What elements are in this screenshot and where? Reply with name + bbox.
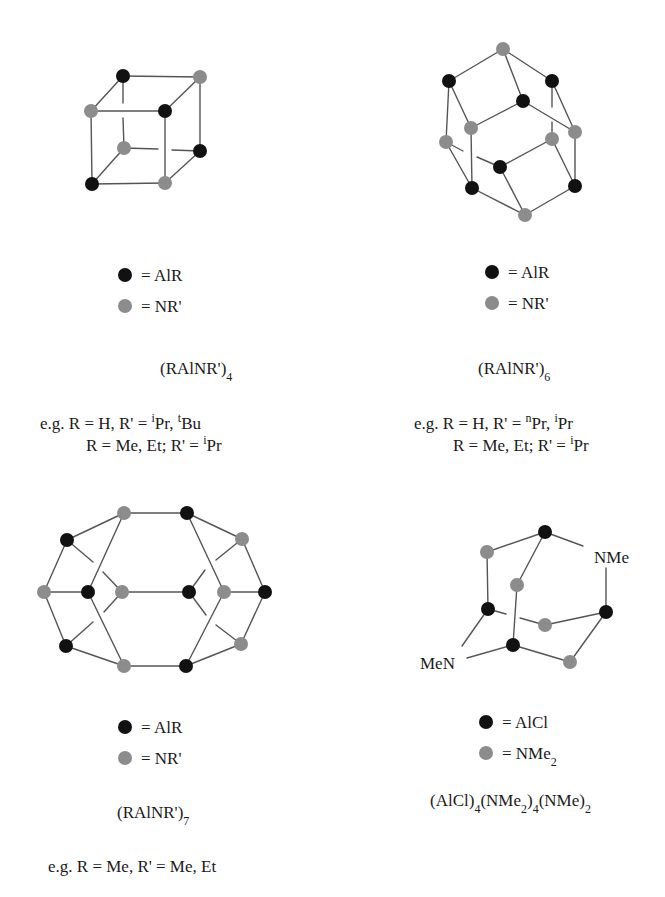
aluminum-atom-dot xyxy=(481,602,495,616)
nitrogen-atom-dot xyxy=(158,176,172,190)
legend-label: = AlR xyxy=(508,263,550,282)
nitrogen-atom-dot xyxy=(568,125,582,139)
aluminum-atom-dot xyxy=(538,525,552,539)
aluminum-atom-dot xyxy=(59,639,73,653)
nitrogen-atom-dot xyxy=(117,659,131,673)
aluminum-atom-dot xyxy=(81,585,95,599)
legend-n-dot xyxy=(118,751,132,765)
bond-line xyxy=(91,111,92,184)
aluminum-atom-dot xyxy=(442,74,456,88)
bond-line xyxy=(123,76,200,77)
nitrogen-atom-dot xyxy=(563,655,577,669)
nitrogen-atom-dot xyxy=(518,208,532,222)
examples-line-2: R = Me, Et; R' = iPr xyxy=(453,433,589,455)
aluminum-atom-dot xyxy=(516,94,530,108)
nme-bridge-label-bottom: MeN xyxy=(420,654,455,673)
legend-label: = AlR xyxy=(141,266,183,285)
examples-line-1: e.g. R = Me, R' = Me, Et xyxy=(48,857,216,876)
nitrogen-atom-dot xyxy=(538,618,552,632)
aluminum-atom-dot xyxy=(182,585,196,599)
nitrogen-atom-dot xyxy=(464,121,478,135)
legend-label: = AlR xyxy=(141,718,183,737)
aluminum-atom-dot xyxy=(193,144,207,158)
examples-line-1: e.g. R = H, R' = nPr, iPr xyxy=(414,411,573,433)
nitrogen-atom-dot xyxy=(496,42,510,56)
legend-al-dot xyxy=(485,265,499,279)
bond-line xyxy=(471,128,472,188)
nitrogen-atom-dot xyxy=(217,585,231,599)
nitrogen-atom-dot xyxy=(545,132,559,146)
legend-label: = NR' xyxy=(141,297,182,316)
aluminum-atom-dot xyxy=(545,74,559,88)
nitrogen-atom-dot xyxy=(439,135,453,149)
aluminum-atom-dot xyxy=(116,69,130,83)
aluminum-imide-structures-figure: = AlR= NR'(RAlNR')4e.g. R = H, R' = iPr,… xyxy=(0,0,665,897)
aluminum-atom-dot xyxy=(465,181,479,195)
legend-al-dot xyxy=(118,720,132,734)
aluminum-atom-dot xyxy=(493,160,507,174)
nitrogen-atom-dot xyxy=(480,545,494,559)
legend-label: = NR' xyxy=(508,294,549,313)
nitrogen-atom-dot xyxy=(235,532,249,546)
nitrogen-atom-dot xyxy=(117,506,131,520)
legend-n-dot xyxy=(485,296,499,310)
aluminum-atom-dot xyxy=(60,533,74,547)
legend-al-dot xyxy=(118,268,132,282)
aluminum-atom-dot xyxy=(258,585,272,599)
nitrogen-atom-dot xyxy=(115,585,129,599)
nitrogen-atom-dot xyxy=(37,585,51,599)
nitrogen-atom-dot xyxy=(84,104,98,118)
bond-line xyxy=(92,183,165,184)
aluminum-atom-dot xyxy=(506,638,520,652)
legend-al-dot xyxy=(479,715,493,729)
aluminum-atom-dot xyxy=(179,659,193,673)
aluminum-atom-dot xyxy=(85,177,99,191)
nitrogen-atom-dot xyxy=(193,70,207,84)
examples-line-2: R = Me, Et; R' = iPr xyxy=(86,433,222,455)
nitrogen-atom-dot xyxy=(510,578,524,592)
legend-label: = AlCl xyxy=(502,713,548,732)
legend-n-dot xyxy=(118,299,132,313)
aluminum-atom-dot xyxy=(568,179,582,193)
aluminum-atom-dot xyxy=(599,605,613,619)
legend-label: = NR' xyxy=(141,749,182,768)
nitrogen-atom-dot xyxy=(234,637,248,651)
nitrogen-atom-dot xyxy=(117,141,131,155)
examples-line-1: e.g. R = H, R' = iPr, tBu xyxy=(40,411,201,433)
aluminum-atom-dot xyxy=(158,104,172,118)
aluminum-atom-dot xyxy=(180,506,194,520)
bond-line xyxy=(487,552,488,609)
legend-n-dot xyxy=(479,746,493,760)
nme-bridge-label-top: NMe xyxy=(594,548,629,567)
